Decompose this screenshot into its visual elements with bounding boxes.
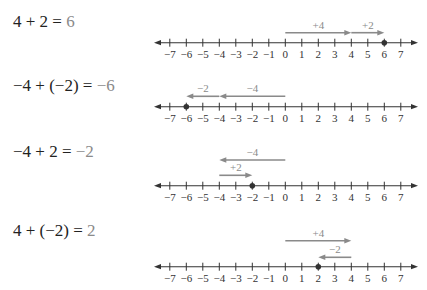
arrowhead-icon [344, 238, 351, 244]
tick-label: −3 [230, 191, 242, 203]
tick-label: 5 [365, 191, 371, 203]
tick-label: 4 [349, 48, 355, 60]
tick-label: 0 [283, 48, 289, 60]
tick-label: −2 [246, 272, 258, 284]
tick-label: 7 [398, 272, 404, 284]
arrow-label: −2 [329, 243, 341, 255]
axis-left-arrow-icon [154, 264, 161, 269]
arrow-label: −4 [246, 82, 258, 94]
tick-label: −3 [230, 112, 242, 124]
axis-left-arrow-icon [154, 183, 161, 188]
tick-label: −6 [180, 272, 192, 284]
movement-arrow: −4 [219, 82, 285, 99]
axis-right-arrow-icon [411, 264, 418, 269]
arrowhead-icon [377, 30, 384, 36]
tick-label: −4 [213, 48, 225, 60]
number-line-2: −7−6−5−4−3−2−101234567−4−2 [154, 82, 418, 123]
number-line-1: −7−6−5−4−3−2−101234567+4+2 [154, 19, 418, 60]
tick-label: 6 [382, 112, 388, 124]
tick-label: 5 [365, 272, 371, 284]
tick-label: 1 [299, 112, 305, 124]
arrow-label: +2 [230, 161, 242, 173]
tick-label: −1 [263, 112, 275, 124]
arrowhead-icon [186, 94, 193, 100]
tick-label: 5 [365, 48, 371, 60]
arrow-label: −2 [197, 82, 209, 94]
tick-label: 7 [398, 48, 404, 60]
tick-label: −1 [263, 48, 275, 60]
tick-label: 0 [283, 272, 289, 284]
tick-label: 3 [332, 191, 338, 203]
tick-label: −2 [246, 191, 258, 203]
tick-label: 6 [382, 191, 388, 203]
movement-arrow: +4 [285, 19, 351, 36]
arrowhead-icon [245, 173, 252, 179]
axis-right-arrow-icon [411, 104, 418, 109]
tick-label: −6 [180, 191, 192, 203]
tick-label: 6 [382, 272, 388, 284]
tick-label: −2 [246, 112, 258, 124]
tick-label: 3 [332, 112, 338, 124]
tick-label: −7 [164, 272, 176, 284]
result-dot [316, 264, 322, 270]
tick-label: −5 [197, 48, 209, 60]
result-dot [184, 104, 190, 110]
movement-arrow: +4 [285, 227, 351, 244]
tick-label: 1 [299, 272, 305, 284]
axis-left-arrow-icon [154, 104, 161, 109]
tick-label: 4 [349, 272, 355, 284]
tick-label: 5 [365, 112, 371, 124]
tick-label: 2 [316, 272, 322, 284]
arrow-label: −4 [246, 146, 258, 158]
tick-label: −3 [230, 48, 242, 60]
number-line-3: −7−6−5−4−3−2−101234567−4+2 [154, 146, 418, 203]
tick-label: 0 [283, 191, 289, 203]
tick-label: −1 [263, 191, 275, 203]
axis-right-arrow-icon [411, 183, 418, 188]
tick-label: 4 [349, 112, 355, 124]
tick-label: −6 [180, 112, 192, 124]
tick-label: 6 [382, 48, 388, 60]
tick-label: −3 [230, 272, 242, 284]
tick-label: −5 [197, 191, 209, 203]
tick-label: 1 [299, 48, 305, 60]
result-dot [382, 40, 388, 46]
tick-label: −4 [213, 112, 225, 124]
tick-label: 2 [316, 112, 322, 124]
arrow-label: +4 [312, 227, 324, 239]
tick-label: 7 [398, 112, 404, 124]
tick-label: 7 [398, 191, 404, 203]
movement-arrow: +2 [219, 161, 252, 178]
tick-label: −4 [213, 191, 225, 203]
number-line-4: −7−6−5−4−3−2−101234567+4−2 [154, 227, 418, 284]
tick-label: −1 [263, 272, 275, 284]
movement-arrow: +2 [351, 19, 384, 36]
tick-label: 3 [332, 272, 338, 284]
axis-right-arrow-icon [411, 40, 418, 45]
tick-label: −2 [246, 48, 258, 60]
tick-label: 3 [332, 48, 338, 60]
tick-label: −6 [180, 48, 192, 60]
arrowhead-icon [219, 94, 226, 100]
tick-label: 4 [349, 191, 355, 203]
axis-left-arrow-icon [154, 40, 161, 45]
movement-arrow: −2 [186, 82, 219, 99]
tick-label: −4 [213, 272, 225, 284]
arrowhead-icon [219, 157, 226, 163]
tick-label: −7 [164, 112, 176, 124]
movement-arrow: −4 [219, 146, 285, 163]
tick-label: 1 [299, 191, 305, 203]
tick-label: 2 [316, 48, 322, 60]
tick-label: 0 [283, 112, 289, 124]
arrowhead-icon [318, 255, 325, 261]
tick-label: 2 [316, 191, 322, 203]
arrowhead-icon [344, 30, 351, 36]
tick-label: −7 [164, 48, 176, 60]
tick-label: −5 [197, 272, 209, 284]
result-dot [250, 183, 256, 189]
movement-arrow: −2 [318, 243, 351, 260]
tick-label: −5 [197, 112, 209, 124]
arrow-label: +2 [362, 19, 374, 31]
tick-label: −7 [164, 191, 176, 203]
number-lines-diagram: −7−6−5−4−3−2−101234567+4+2−7−6−5−4−3−2−1… [0, 0, 427, 290]
